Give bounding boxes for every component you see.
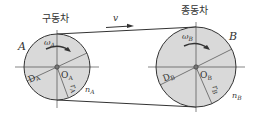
velocity-label: v: [113, 13, 118, 23]
rpm-label-b: nB: [232, 91, 242, 101]
velocity-arrowhead: [127, 24, 134, 28]
pulley-a: [15, 30, 99, 108]
belt-drive-diagram: v 구동차 A ωA DA OA rA nA 종동차 B ωB DB OB rB…: [0, 0, 257, 115]
caption-b: 종동차: [181, 5, 208, 16]
rpm-label-a: nA: [85, 85, 95, 95]
label-a: A: [17, 40, 26, 53]
center-b: [194, 65, 198, 69]
label-b: B: [228, 30, 237, 43]
caption-a: 구동차: [42, 13, 69, 24]
center-a: [55, 65, 59, 69]
